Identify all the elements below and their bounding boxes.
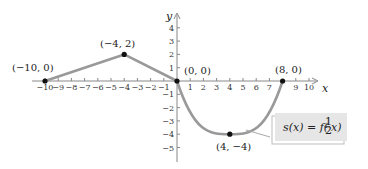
x-tick-label: −4 xyxy=(118,83,130,92)
x-tick-label: 6 xyxy=(254,83,259,92)
x-tick-label: 10 xyxy=(304,83,314,92)
x-tick-label: −6 xyxy=(92,83,104,92)
x-tick-label: −7 xyxy=(79,83,91,92)
key-point xyxy=(280,78,285,83)
key-point xyxy=(122,52,127,57)
key-point xyxy=(42,78,47,83)
x-tick-label: 5 xyxy=(240,83,245,92)
x-tick-label: −5 xyxy=(105,83,117,92)
key-point xyxy=(174,78,179,83)
x-tick-label: −3 xyxy=(132,83,144,92)
x-tick-label: 3 xyxy=(214,83,219,92)
x-tick-label: 9 xyxy=(293,83,298,92)
y-tick-label: −1 xyxy=(162,90,174,99)
y-tick-label: 2 xyxy=(169,50,174,59)
y-tick-label: 3 xyxy=(169,37,174,46)
x-tick-label: 1 xyxy=(188,83,193,92)
x-tick-label: 4 xyxy=(227,83,232,92)
formula-main: s(x) = f( xyxy=(283,121,329,134)
point-label-neg4-2: (−4, 2) xyxy=(100,38,135,49)
formula-tail: x) xyxy=(331,121,342,134)
key-point xyxy=(227,132,232,137)
x-axis-label: x xyxy=(322,82,329,95)
point-label-0-0: (0, 0) xyxy=(184,65,211,76)
x-tick-label: −2 xyxy=(145,83,157,92)
x-tick-label: 2 xyxy=(201,83,206,92)
x-tick-label: −9 xyxy=(52,83,64,92)
x-tick-label: −10 xyxy=(37,83,54,92)
x-tick-label: −8 xyxy=(66,83,78,92)
y-tick-label: −3 xyxy=(162,117,174,126)
formula-callout: s(x) = f( 1 2 x) xyxy=(246,113,347,144)
y-tick-label: 4 xyxy=(169,24,174,33)
function-graph: −10−9−8−7−6−5−4−3−2−11234567910 4321−1−2… xyxy=(0,0,368,169)
point-label-4-neg4: (4, −4) xyxy=(216,141,251,152)
point-label-8-0: (8, 0) xyxy=(275,64,302,75)
point-label-neg10-0: (−10, 0) xyxy=(12,62,54,73)
formula-text: s(x) = f( xyxy=(283,121,329,134)
callout-leader-line xyxy=(246,130,270,137)
x-tick-label: 7 xyxy=(267,83,272,92)
y-tick-label: 1 xyxy=(169,64,174,73)
y-tick-label: −2 xyxy=(162,104,174,113)
y-tick-label: −4 xyxy=(162,130,174,139)
y-axis-label: y xyxy=(165,10,173,23)
y-tick-label: −5 xyxy=(162,144,174,153)
